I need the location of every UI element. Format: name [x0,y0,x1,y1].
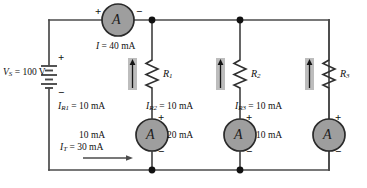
source-label: VS = 100 V [3,68,46,78]
node-bottom-branch2 [237,167,244,174]
total-current-arrow-head [126,155,133,160]
current-r2-label: IR2 = 10 mA [146,102,193,112]
total-current-eq: = 30 mA [67,142,103,152]
source-minus-sign: − [58,87,64,98]
current-r1-eq: = 10 mA [69,101,105,111]
branch3-ammeter-minus-sign: − [335,146,341,157]
branch1-ammeter-glyph: A [146,128,155,142]
branch2-ammeter-glyph: A [234,128,243,142]
resistor-r3-sub: 3 [346,72,350,80]
current-r1-sub: R1 [61,104,69,112]
total-current-arrow [83,155,133,160]
branch2-ammeter-plus-sign: + [246,112,252,123]
resistor-r1-label: R1 [163,69,173,80]
source-eq: = 100 V [12,67,45,77]
node-top-branch2 [237,17,244,24]
main-ammeter-plus-sign: + [95,6,101,17]
current-r2-sub: R2 [149,104,157,112]
circuit-schematic [0,0,367,188]
node-top-branch1 [149,17,156,24]
node-bottom-branch1 [149,167,156,174]
current-r3-label: IR3 = 10 mA [235,102,282,112]
branch2-ammeter-reading: 20 mA [167,131,193,141]
resistor-r2-label: R2 [251,69,261,80]
total-current-label: IT = 30 mA [60,143,103,153]
branch3-ammeter-glyph: A [323,128,332,142]
resistor-r1-zigzag [146,60,158,88]
main-ammeter-glyph: A [112,13,121,27]
current-r1-label: IR1 = 10 mA [58,102,105,112]
branch3-ammeter-plus-sign: + [335,112,341,123]
branch1-ammeter-minus-sign: − [158,146,164,157]
current-r2-eq: = 10 mA [157,101,193,111]
main-ammeter-minus-sign: − [136,6,142,17]
branch3-ammeter-reading: 10 mA [256,131,282,141]
resistor-r2-zigzag [234,60,246,88]
resistor-r3-label: R3 [340,69,350,80]
branch1-ammeter-reading: 10 mA [79,131,105,141]
main-current-label: I = 40 mA [96,42,135,52]
source-plus-sign: + [58,52,64,63]
resistor-r2-sub: 2 [257,72,261,80]
current-arrow-group [128,58,314,90]
main-current-eq: = 40 mA [99,41,135,51]
current-r3-sub: R3 [238,104,246,112]
branch2-ammeter-minus-sign: − [246,146,252,157]
branch1-ammeter-plus-sign: + [158,112,164,123]
current-r3-eq: = 10 mA [246,101,282,111]
resistor-r1-sub: 1 [169,72,173,80]
